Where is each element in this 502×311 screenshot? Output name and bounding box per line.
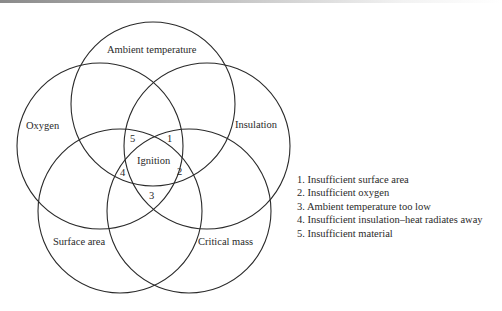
region-number-4: 4 (120, 167, 125, 178)
label-ambient-temperature: Ambient temperature (107, 44, 197, 55)
circle-oxygen (17, 63, 183, 229)
legend-item: 1. Insufficient surface area (297, 173, 483, 186)
circle-insulation (124, 63, 290, 229)
label-oxygen: Oxygen (26, 120, 59, 131)
label-ignition: Ignition (137, 155, 170, 166)
region-number-3: 3 (149, 190, 154, 201)
circle-surface-area (38, 129, 202, 293)
legend-item: 4. Insufficient insulation–heat radiates… (297, 213, 483, 226)
region-number-1: 1 (167, 133, 172, 144)
legend-item: 2. Insufficient oxygen (297, 186, 483, 199)
label-critical-mass: Critical mass (198, 236, 253, 247)
region-number-2: 2 (177, 166, 182, 177)
venn-diagram (0, 0, 502, 311)
legend-item: 3. Ambient temperature too low (297, 200, 483, 213)
region-number-5: 5 (130, 133, 135, 144)
legend: 1. Insufficient surface area 2. Insuffic… (297, 173, 483, 240)
label-surface-area: Surface area (53, 236, 105, 247)
legend-item: 5. Insufficient material (297, 227, 483, 240)
label-insulation: Insulation (235, 119, 277, 130)
circle-critical-mass (107, 129, 271, 293)
